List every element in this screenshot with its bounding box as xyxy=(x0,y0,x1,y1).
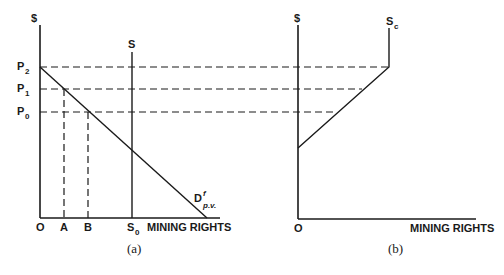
demand-curve-pv xyxy=(40,67,207,218)
supply-label-s: S xyxy=(128,38,135,50)
quantity-label-s0: S 0 xyxy=(127,221,140,237)
svg-text:c: c xyxy=(394,22,399,31)
svg-text:P: P xyxy=(17,82,24,94)
panel-b-x-label: MINING RIGHTS xyxy=(410,222,494,234)
svg-text:2: 2 xyxy=(25,67,30,76)
supply-curve-sc xyxy=(298,28,389,148)
panel-a-caption: (a) xyxy=(127,241,141,256)
svg-text:S: S xyxy=(127,221,134,233)
panel-b-y-label: $ xyxy=(294,12,300,24)
svg-text:0: 0 xyxy=(135,228,140,237)
demand-label: D f p.v. xyxy=(194,189,216,210)
mining-rights-diagram: $ S P 2 P 1 P 0 O A B S 0 MINING RIGHTS … xyxy=(0,0,504,275)
quantity-label-a: A xyxy=(60,221,68,233)
svg-text:S: S xyxy=(386,15,393,27)
quantity-label-b: B xyxy=(84,221,92,233)
price-label-p1: P 1 xyxy=(17,82,30,98)
panel-a-y-label: $ xyxy=(31,12,37,24)
svg-text:P: P xyxy=(17,60,24,72)
panel-a-x-label: MINING RIGHTS xyxy=(147,221,231,233)
price-label-p0: P 0 xyxy=(17,105,30,121)
panel-b: $ S c O MINING RIGHTS (b) xyxy=(294,12,494,256)
price-label-p2: P 2 xyxy=(17,60,30,76)
panel-b-caption: (b) xyxy=(388,241,403,256)
supply-label-sc: S c xyxy=(386,15,399,31)
svg-text:f: f xyxy=(203,189,207,198)
panel-b-origin-label: O xyxy=(294,222,303,234)
svg-text:P: P xyxy=(17,105,24,117)
svg-text:1: 1 xyxy=(25,89,30,98)
svg-text:D: D xyxy=(194,192,202,204)
panel-a-origin-label: O xyxy=(36,221,45,233)
svg-text:p.v.: p.v. xyxy=(202,201,216,210)
svg-text:0: 0 xyxy=(25,112,30,121)
